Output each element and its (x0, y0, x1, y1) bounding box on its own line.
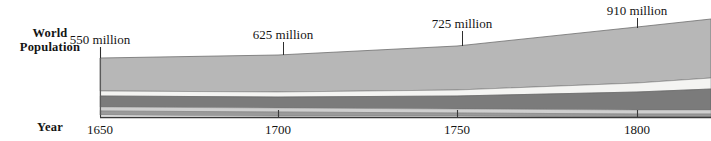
plot-area (0, 0, 711, 141)
population-callout-label: 910 million (607, 3, 667, 18)
plot-svg (0, 0, 711, 141)
band-upper-light (100, 19, 711, 92)
x-tick-label-1700: 1700 (265, 122, 291, 137)
population-callout-label: 725 million (432, 16, 492, 31)
chart-figure: World Population Year (0, 0, 711, 141)
x-tick-label-1650: 1650 (87, 122, 113, 137)
population-callout-label: 550 million (70, 32, 130, 47)
population-callout-1750: 725 million (432, 16, 492, 31)
population-callout-1650: 550 million (70, 32, 130, 47)
population-callout-1700: 625 million (253, 27, 313, 42)
x-tick-label-1750: 1750 (444, 122, 470, 137)
population-callout-1800: 910 million (607, 3, 667, 18)
x-tick-label-1800: 1800 (624, 122, 650, 137)
population-callout-label: 625 million (253, 27, 313, 42)
